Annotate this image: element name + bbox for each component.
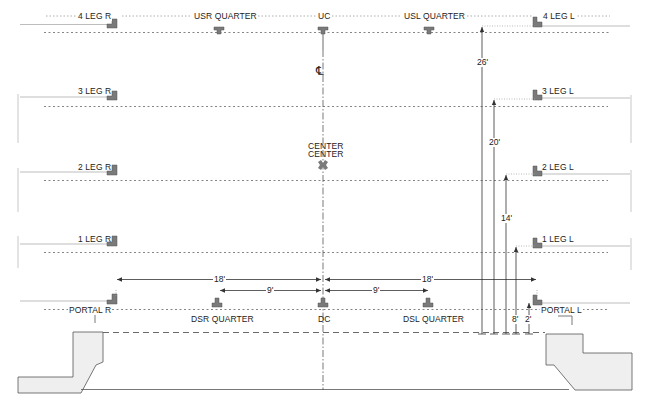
leg-2-r-label: 2 LEG R xyxy=(78,163,111,172)
stage-plot-diagram: 4 LEG R USR QUARTER UC USL QUARTER 4 LEG… xyxy=(0,0,645,403)
proscenium-left xyxy=(18,313,103,393)
dim-2ft: 2' xyxy=(524,315,532,324)
leg-3-r-label: 3 LEG R xyxy=(78,87,111,96)
dim-right-outer: 18' xyxy=(421,275,434,284)
usr-quarter-label: USR QUARTER xyxy=(193,12,258,21)
leg-2-l-marker xyxy=(533,166,542,176)
proscenium-right xyxy=(546,316,632,390)
leg-3-l-marker xyxy=(533,90,542,100)
leg-4-l-label: 4 LEG L xyxy=(542,12,576,21)
portal-l-marker xyxy=(533,295,542,305)
row-leg-3 xyxy=(18,94,631,143)
dsl-quarter-label: DSL QUARTER xyxy=(403,315,464,324)
dim-20ft: 20' xyxy=(488,138,501,147)
centerline-symbol: ℄ xyxy=(316,65,324,77)
dim-left-outer: 18' xyxy=(213,275,226,284)
leg-4-r-label: 4 LEG R xyxy=(77,12,112,21)
dsr-quarter-label: DSR QUARTER xyxy=(191,315,254,324)
dim-8ft: 8' xyxy=(511,315,519,324)
portal-r-label: PORTAL R xyxy=(68,306,112,315)
diagram-canvas xyxy=(0,0,645,403)
uc-marker xyxy=(318,27,328,34)
leg-1-r-label: 1 LEG R xyxy=(78,235,111,244)
uc-label: UC xyxy=(317,12,331,21)
vertical-dimensions xyxy=(478,26,535,334)
leg-4-l-marker xyxy=(533,17,542,27)
center-label-line2: CENTER xyxy=(308,150,344,159)
dim-14ft: 14' xyxy=(500,214,513,223)
horizontal-dimensions xyxy=(116,280,537,297)
dsl-quarter-marker xyxy=(423,298,433,307)
usl-quarter-label: USL QUARTER xyxy=(403,12,466,21)
leg-l-markers xyxy=(533,17,542,305)
leg-1-l-label: 1 LEG L xyxy=(542,235,574,244)
dc-label: DC xyxy=(318,315,330,324)
leg-1-l-marker xyxy=(533,238,542,248)
leg-2-l-label: 2 LEG L xyxy=(542,163,574,172)
usl-quarter-marker xyxy=(424,27,434,34)
dsr-quarter-marker xyxy=(212,298,222,307)
dim-26ft: 26' xyxy=(476,58,489,67)
dim-right-inner: 9' xyxy=(372,286,380,295)
portal-r-marker xyxy=(107,294,117,304)
portal-l-label: PORTAL L xyxy=(540,306,583,315)
dc-marker xyxy=(318,298,328,307)
dim-left-inner: 9' xyxy=(266,286,274,295)
leg-3-l-label: 3 LEG L xyxy=(542,87,574,96)
usr-quarter-marker xyxy=(214,27,224,34)
